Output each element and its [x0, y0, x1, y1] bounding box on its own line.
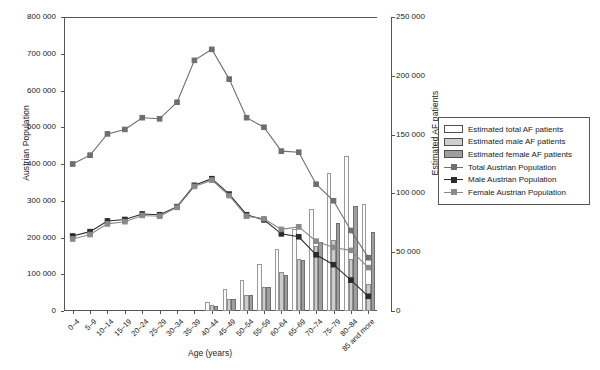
legend-label: Male Austrian Population — [468, 175, 557, 184]
legend-item: Estimated female AF patients — [444, 148, 585, 161]
line-marker — [296, 150, 301, 155]
x-axis-tick — [299, 311, 300, 314]
plot-area — [64, 17, 377, 311]
y-axis-right-tick — [391, 311, 395, 312]
line-marker — [366, 255, 371, 260]
y-axis-right-tick-label: 250 000 — [396, 12, 425, 21]
x-axis-tick — [160, 311, 161, 314]
x-axis-tick — [142, 311, 143, 314]
line-marker — [314, 182, 319, 187]
line-marker — [210, 178, 215, 183]
line-series — [73, 49, 369, 257]
legend-item: Estimated total AF patients — [444, 123, 585, 136]
x-axis-tick — [107, 311, 108, 314]
line-marker — [140, 115, 145, 120]
line-marker — [227, 193, 232, 198]
legend-line-icon — [444, 163, 463, 171]
chart-figure: Austrian Population Estimated AF patient… — [0, 0, 600, 370]
line-marker — [105, 222, 110, 227]
line-marker — [331, 245, 336, 250]
line-marker — [349, 248, 354, 253]
line-marker — [314, 239, 319, 244]
y-axis-right-tick — [391, 135, 395, 136]
line-marker — [70, 237, 75, 242]
y-axis-left-tick-label: 700 000 — [0, 49, 56, 58]
line-marker — [262, 125, 267, 130]
line-marker — [349, 228, 354, 233]
legend-item: Estimated male AF patients — [444, 136, 585, 149]
line-marker — [227, 77, 232, 82]
line-marker — [366, 294, 371, 299]
line-marker — [157, 214, 162, 219]
line-marker — [314, 252, 319, 257]
line-marker — [244, 115, 249, 120]
x-axis-tick — [229, 311, 230, 314]
line-marker — [210, 47, 215, 52]
x-axis-tick — [90, 311, 91, 314]
x-axis-tick — [368, 311, 369, 314]
line-marker — [123, 219, 128, 224]
x-axis-tick — [125, 311, 126, 314]
line-marker — [279, 149, 284, 154]
line-marker — [192, 58, 197, 63]
line-marker — [192, 184, 197, 189]
y-axis-left-tick-label: 100 000 — [0, 269, 56, 278]
line-layer — [64, 17, 377, 311]
y-axis-left-tick-label: 300 000 — [0, 196, 56, 205]
line-marker — [175, 100, 180, 105]
y-axis-right-tick-label: 100 000 — [396, 188, 425, 197]
x-axis-tick — [334, 311, 335, 314]
x-axis-tick — [351, 311, 352, 314]
legend-label: Total Austrian Population — [468, 163, 556, 172]
line-marker — [244, 214, 249, 219]
y-axis-right-tick-label: 150 000 — [396, 130, 425, 139]
line-marker — [88, 153, 93, 158]
y-axis-right-tick-label: 50 000 — [396, 247, 420, 256]
legend-swatch-icon — [444, 138, 463, 146]
line-marker — [331, 198, 336, 203]
y-axis-right-tick — [391, 76, 395, 77]
x-axis-tick — [247, 311, 248, 314]
y-axis-left-tick — [61, 311, 64, 312]
line-marker — [140, 213, 145, 218]
legend-line-icon — [444, 188, 463, 196]
x-axis-tick — [316, 311, 317, 314]
line-series — [73, 179, 369, 297]
line-marker — [349, 278, 354, 283]
line-marker — [70, 162, 75, 167]
line-marker — [88, 232, 93, 237]
line-marker — [296, 225, 301, 230]
line-marker — [366, 265, 371, 270]
y-axis-right-tick-label: 0 — [396, 306, 400, 315]
legend-label: Female Austrian Population — [468, 188, 566, 197]
y-axis-right-line — [391, 17, 392, 311]
y-axis-left-tick-label: 500 000 — [0, 122, 56, 131]
legend-item: Female Austrian Population — [444, 186, 585, 199]
legend-label: Estimated total AF patients — [468, 125, 563, 134]
legend-label: Estimated female AF patients — [468, 150, 572, 159]
x-axis-tick — [281, 311, 282, 314]
legend-item: Male Austrian Population — [444, 173, 585, 186]
y-axis-left-tick-label: 0 — [0, 306, 56, 315]
y-axis-left-tick-label: 200 000 — [0, 233, 56, 242]
y-axis-right-tick — [391, 252, 395, 253]
x-axis-tick — [177, 311, 178, 314]
line-series — [73, 180, 369, 267]
line-marker — [331, 262, 336, 267]
legend-swatch-icon — [444, 150, 463, 158]
line-marker — [175, 205, 180, 210]
legend-label: Estimated male AF patients — [468, 137, 565, 146]
x-axis-tick — [264, 311, 265, 314]
y-axis-left-tick-label: 400 000 — [0, 159, 56, 168]
x-axis-tick — [194, 311, 195, 314]
line-marker — [157, 116, 162, 121]
line-marker — [105, 132, 110, 137]
x-axis-tick — [73, 311, 74, 314]
chart-legend: Estimated total AF patientsEstimated mal… — [438, 117, 590, 205]
y-axis-right-tick-label: 200 000 — [396, 71, 425, 80]
legend-swatch-icon — [444, 125, 463, 133]
y-axis-right-tick — [391, 17, 395, 18]
legend-item: Total Austrian Population — [444, 161, 585, 174]
y-axis-left-tick-label: 800 000 — [0, 12, 56, 21]
legend-line-icon — [444, 176, 463, 184]
